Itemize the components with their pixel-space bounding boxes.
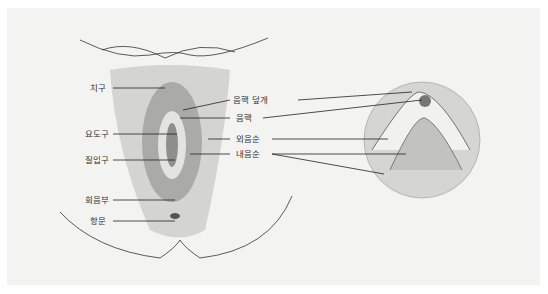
label-clitoris: 음핵 (236, 113, 252, 123)
upper-outline (80, 38, 268, 56)
label-labia-majora: 외음순 (236, 134, 260, 144)
label-clitoral-hood: 음핵 덮개 (233, 95, 268, 105)
label-vaginal-opening: 질입구 (85, 155, 109, 165)
label-mons: 치구 (90, 83, 106, 93)
label-urethral-opening: 요도구 (85, 129, 109, 139)
anatomy-illustration (0, 0, 548, 294)
label-labia-minora: 내음순 (236, 149, 260, 159)
label-anus: 항문 (90, 216, 106, 226)
label-perineum: 회음부 (85, 195, 109, 205)
